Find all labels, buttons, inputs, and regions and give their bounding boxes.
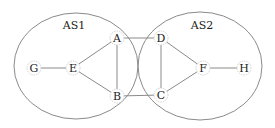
node-label: G: [30, 62, 39, 75]
router-node-b: B: [110, 89, 124, 103]
router-node-a: A: [110, 31, 124, 45]
router-node-e: E: [66, 61, 80, 75]
link-e-b: [73, 68, 117, 96]
autonomous-system-layer: [14, 12, 262, 120]
router-node-h: H: [237, 61, 251, 75]
node-label: D: [157, 32, 166, 45]
node-label: H: [239, 62, 249, 75]
router-node-g: G: [27, 61, 41, 75]
as-label-as1: AS1: [62, 19, 85, 32]
router-node-f: F: [196, 61, 210, 75]
as-label-as2: AS2: [190, 19, 213, 32]
node-label: E: [69, 62, 77, 75]
router-node-c: C: [154, 88, 168, 102]
link-layer: [34, 38, 244, 96]
node-label: F: [199, 62, 207, 75]
link-e-a: [73, 38, 117, 68]
router-node-d: D: [154, 31, 168, 45]
node-label: C: [157, 89, 165, 102]
router-node-layer: GEABDCFH: [27, 31, 251, 103]
node-label: B: [113, 90, 121, 103]
network-diagram: GEABDCFH AS1AS2: [0, 0, 275, 128]
as-label-layer: AS1AS2: [62, 19, 213, 32]
node-label: A: [112, 32, 122, 45]
link-d-f: [161, 38, 203, 68]
